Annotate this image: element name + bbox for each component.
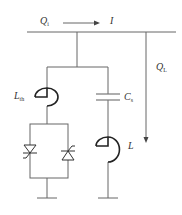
label-c-s: Cs bbox=[124, 92, 133, 103]
label-q-l: QL bbox=[156, 62, 167, 73]
label-l: L bbox=[128, 141, 134, 151]
circuit-diagram bbox=[0, 0, 182, 215]
label-l-th: Lth bbox=[14, 91, 24, 102]
label-current: I bbox=[110, 16, 113, 26]
capacitor-cs bbox=[96, 94, 120, 100]
inductor-l bbox=[96, 137, 119, 162]
inductor-lth bbox=[35, 88, 58, 106]
current-arrowhead bbox=[94, 21, 100, 26]
load-arrowhead bbox=[144, 137, 149, 143]
label-q-i: Qi bbox=[40, 16, 49, 27]
